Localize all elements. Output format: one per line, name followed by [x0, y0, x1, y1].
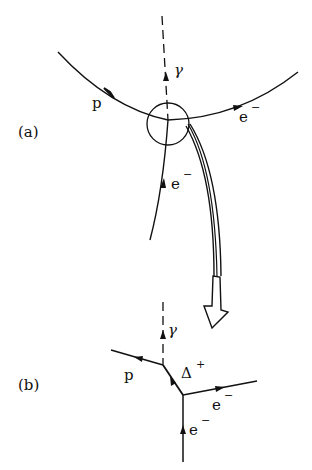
proton-arrow-b — [134, 356, 143, 362]
photon-arrow-b — [160, 330, 166, 339]
hollow-arrowhead-icon — [204, 276, 228, 328]
photon-arrow-a — [163, 72, 169, 81]
proton-label-a: p — [92, 94, 102, 112]
panel-a-label: (a) — [18, 123, 39, 141]
electron-out-label-b: e — [212, 396, 221, 414]
photon-label-b: γ — [168, 321, 177, 339]
photon-label-a: γ — [174, 61, 183, 79]
zoom-transition-arrow — [186, 124, 228, 328]
electron-in-sup-b: − — [201, 414, 210, 427]
panel-b-label: (b) — [18, 376, 39, 394]
electron-in-sup-a: − — [183, 168, 192, 181]
electron-in-label-a: e — [171, 175, 180, 193]
electron-in-label-b: e — [189, 421, 198, 439]
electron-out-sup-b: − — [224, 389, 233, 402]
proton-line-a — [58, 52, 168, 120]
proton-label-b: p — [124, 366, 134, 384]
electron-in-arrow-b — [180, 425, 186, 434]
electron-out-label-a: e — [239, 108, 248, 126]
electron-out-sup-a: − — [251, 101, 260, 114]
panel-b: (b) p γ Δ + e − e − — [18, 302, 257, 462]
feynman-diagram: (a) p γ e − e − (b) p γ Δ + — [0, 0, 312, 470]
electron-out-line-a — [168, 72, 298, 120]
panel-a: (a) p γ e − e − — [18, 16, 298, 240]
delta-label-b: Δ — [181, 364, 192, 382]
photon-line-a — [162, 16, 168, 120]
delta-sup-b: + — [196, 358, 205, 371]
